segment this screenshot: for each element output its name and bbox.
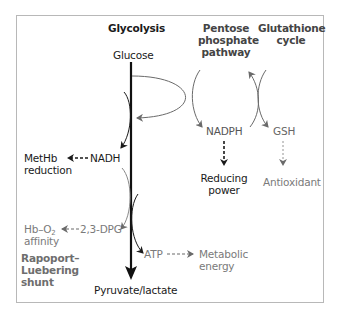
glucose-label: Glucose [113,49,153,61]
pentose-header-line3: pathway [198,46,254,58]
hbo2-line1: Hb–O2 [24,223,59,235]
antioxidant-label: Antioxidant [263,176,321,188]
methb-line2: reduction [24,164,72,176]
atp-branch-arrow [132,194,143,253]
pyruvate-lactate-label: Pyruvate/lactate [94,284,177,296]
metabolic-line2: energy [199,260,248,272]
pentose-header-line2: phosphate [198,34,254,46]
shunt-line1: Rapoport– [21,252,79,264]
gsh-label: GSH [273,125,295,137]
shunt-line2: Luebering [21,264,79,276]
pentose-out-arrow [249,72,259,127]
glutathione-header-line1: Glutathione [258,22,324,34]
glutathione-header-line2: cycle [258,34,324,46]
glycolysis-header: Glycolysis [108,22,165,34]
pentose-pathway-header: Pentose phosphate pathway [198,22,254,58]
nadph-label: NADPH [206,125,242,137]
rapoport-luebering-shunt-label: Rapoport– Luebering shunt [21,252,79,288]
pentose-header-line1: Pentose [198,22,254,34]
glycolysis-trunk-arrow [125,62,137,280]
hbo2-affinity-label: Hb–O2 affinity [24,223,59,247]
hbo2-prefix: Hb–O [24,223,51,235]
metabolic-line1: Metabolic [199,248,248,260]
reducing-line2: power [198,184,250,196]
reducing-line1: Reducing [198,172,250,184]
dpg-label: 2,3-DPG [80,223,122,235]
nadh-branch-arrow [121,92,130,148]
atp-label: ATP [144,248,163,260]
nadh-label: NADH [90,152,120,164]
glutathione-cycle-header: Glutathione cycle [258,22,324,46]
shunt-line3: shunt [21,276,79,288]
pentose-in-arrow [192,70,202,127]
methb-line1: MetHb [24,152,72,164]
dpg-branch-arrow [121,168,130,229]
methb-reduction-label: MetHb reduction [24,152,72,176]
glutathione-arrow [258,70,268,127]
reducing-power-label: Reducing power [198,172,250,196]
pentose-shunt-loop-arrow [132,76,186,118]
metabolic-energy-label: Metabolic energy [199,248,248,272]
hbo2-line2: affinity [24,235,59,247]
